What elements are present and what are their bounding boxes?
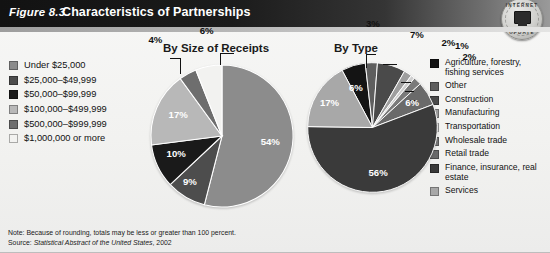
legend-item-label: $100,000–$499,999 xyxy=(24,104,107,115)
figure-footer: Note: Because of rounding, totals may be… xyxy=(8,228,236,247)
pie-slice-label: 17% xyxy=(320,97,339,108)
legend-item[interactable]: $100,000–$499,999 xyxy=(9,104,141,115)
chart-title-left: By Size of Receipts xyxy=(163,42,269,54)
figure-container: Figure 8.3 Characteristics of Partnershi… xyxy=(0,0,550,253)
pie-chart-by-type: 6%3%7%2%1%2%6%56%17% xyxy=(305,60,440,195)
legend-item-label: Services xyxy=(445,186,478,196)
legend-swatch xyxy=(9,61,18,70)
legend-item-label: Manufacturing xyxy=(445,108,499,118)
legend-item-label: Other xyxy=(445,81,467,91)
legend-item-label: Under $25,000 xyxy=(24,60,86,71)
pie-slice-label: 56% xyxy=(368,167,387,178)
footnote-note: Note: Because of rounding, totals may be… xyxy=(8,228,236,237)
legend-item-label: Wholesale trade xyxy=(445,136,507,146)
figure-header-bar: Figure 8.3 Characteristics of Partnershi… xyxy=(0,0,550,27)
legend-item[interactable]: Wholesale trade xyxy=(430,136,548,146)
legend-swatch xyxy=(9,105,18,114)
legend-item-label: $50,000–$99,999 xyxy=(24,89,96,100)
legend-swatch xyxy=(9,134,18,143)
legend-item[interactable]: Construction xyxy=(430,95,548,105)
legend-item[interactable]: Under $25,000 xyxy=(9,60,141,71)
legend-item-label: Finance, insurance, real estate xyxy=(445,163,548,183)
pie-slice-label: 2% xyxy=(462,51,476,62)
legend-item-label: Agriculture, forestry, fishing services xyxy=(445,58,548,78)
pie-slice-label: 4% xyxy=(148,34,162,45)
legend-item[interactable]: Services xyxy=(430,186,548,196)
source-prefix: Source: xyxy=(8,239,34,246)
legend-item[interactable]: $25,000–$49,999 xyxy=(9,75,141,86)
pie-slice-label: 10% xyxy=(167,148,186,159)
footnote-source: Source: Statistical Abstract of the Unit… xyxy=(8,238,236,247)
label-leader-line xyxy=(366,54,376,55)
pie-slice-label: 17% xyxy=(169,109,188,120)
legend-swatch xyxy=(9,76,18,85)
legend-item[interactable]: $50,000–$99,999 xyxy=(9,89,141,100)
header-underline xyxy=(0,27,550,32)
legend-item-label: $1,000,000 or more xyxy=(24,133,105,144)
legend-item-label: Construction xyxy=(445,95,493,105)
pie-slice-label: 6% xyxy=(200,25,214,36)
legend-item-label: $25,000–$49,999 xyxy=(24,75,96,86)
legend-item[interactable]: $1,000,000 or more xyxy=(9,133,141,144)
pie-slice-label: 1% xyxy=(455,40,469,51)
legend-swatch xyxy=(9,120,18,129)
figure-title: Characteristics of Partnerships xyxy=(62,5,251,19)
legend-item-label: Transportation xyxy=(445,122,500,132)
pie-slice-label: 9% xyxy=(183,176,197,187)
legend-swatch xyxy=(9,90,18,99)
chart-title-right: By Type xyxy=(334,42,378,54)
pie-slice-label: 54% xyxy=(261,136,280,147)
badge-text-top: INTERNET xyxy=(502,3,542,8)
pie-slice-label: 3% xyxy=(366,18,380,29)
pie-slice-label: 6% xyxy=(405,97,419,108)
pie-chart-by-size-of-receipts: 54%9%10%17%4%6% xyxy=(148,62,296,210)
label-leader-line xyxy=(383,64,397,65)
label-leader-line xyxy=(366,54,367,68)
pie-slice-label: 2% xyxy=(441,37,455,48)
legend-item[interactable]: Agriculture, forestry, fishing services xyxy=(430,58,548,78)
label-leader-line xyxy=(220,53,234,54)
legend-item[interactable]: Other xyxy=(430,81,548,91)
internet-update-badge-icon[interactable]: INTERNET UPDATE xyxy=(501,0,543,40)
label-leader-line xyxy=(180,58,181,74)
legend-item-label: Retail trade xyxy=(445,149,489,159)
figure-number: Figure 8.3 xyxy=(9,6,65,18)
legend-item[interactable]: Finance, insurance, real estate xyxy=(430,163,548,183)
label-leader-line xyxy=(220,53,221,65)
legend-item-label: $500,000–$999,999 xyxy=(24,119,107,130)
label-leader-line xyxy=(401,82,411,83)
legend-item[interactable]: $500,000–$999,999 xyxy=(9,119,141,130)
label-leader-line xyxy=(405,91,414,92)
computer-monitor-icon xyxy=(514,11,531,24)
legend-item[interactable]: Retail trade xyxy=(430,149,548,159)
pie-slice-label: 7% xyxy=(410,29,424,40)
label-leader-line xyxy=(170,58,181,59)
legend-by-type: Agriculture, forestry, fishing services … xyxy=(430,58,548,200)
pie-slice-label: 6% xyxy=(349,82,363,93)
legend-by-size-of-receipts: Under $25,000 $25,000–$49,999 $50,000–$9… xyxy=(9,60,141,148)
legend-item[interactable]: Transportation xyxy=(430,122,548,132)
source-title: Statistical Abstract of the United State… xyxy=(34,239,153,246)
source-suffix: , 2002 xyxy=(153,239,172,246)
legend-item[interactable]: Manufacturing xyxy=(430,108,548,118)
